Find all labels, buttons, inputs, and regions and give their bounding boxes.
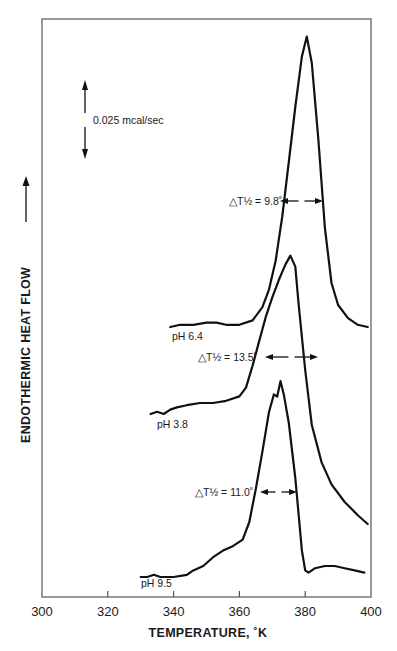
x-axis-title: TEMPERATURE, ˚K bbox=[149, 626, 268, 640]
y-axis-arrowhead-icon bbox=[23, 176, 30, 186]
x-tick-label: 320 bbox=[97, 604, 119, 619]
dsc-chart: 300320340360380400 TEMPERATURE, ˚K ENDOT… bbox=[0, 0, 397, 651]
curve-label-ph-6-4: pH 6.4 bbox=[172, 330, 203, 342]
scale-bar: 0.025 mcal/sec bbox=[82, 80, 164, 159]
arrow-left-icon bbox=[260, 489, 268, 495]
scale-bar-down-arrowhead-icon bbox=[82, 149, 88, 159]
curve-label-ph-9-5: pH 9.5 bbox=[141, 577, 172, 589]
curve-ph-9-5 bbox=[141, 381, 365, 577]
x-tick-label: 300 bbox=[31, 604, 53, 619]
arrow-right-icon bbox=[310, 354, 318, 360]
scale-bar-up-arrowhead-icon bbox=[82, 80, 88, 90]
x-axis: 300320340360380400 bbox=[31, 591, 382, 619]
curve-label-ph-3-8: pH 3.8 bbox=[157, 418, 188, 430]
plot-frame bbox=[42, 19, 371, 597]
half-width-label-ph-3-8: △T½ = 13.5˚ bbox=[198, 351, 257, 363]
x-tick-label: 380 bbox=[294, 604, 316, 619]
curve-ph-6-4 bbox=[170, 37, 367, 327]
x-tick-label: 340 bbox=[163, 604, 185, 619]
scale-bar-label: 0.025 mcal/sec bbox=[93, 114, 164, 126]
half-width-label-ph-6-4: △T½ = 9.8˚ bbox=[229, 195, 282, 207]
x-tick-label: 360 bbox=[229, 604, 251, 619]
y-axis-title-group: ENDOTHERMIC HEAT FLOW bbox=[19, 176, 33, 443]
curves bbox=[141, 37, 368, 577]
half-width-label-ph-9-5: △T½ = 11.0˚ bbox=[195, 486, 253, 498]
x-tick-label: 400 bbox=[360, 604, 382, 619]
arrow-left-icon bbox=[265, 354, 273, 360]
y-axis-title: ENDOTHERMIC HEAT FLOW bbox=[19, 267, 33, 443]
